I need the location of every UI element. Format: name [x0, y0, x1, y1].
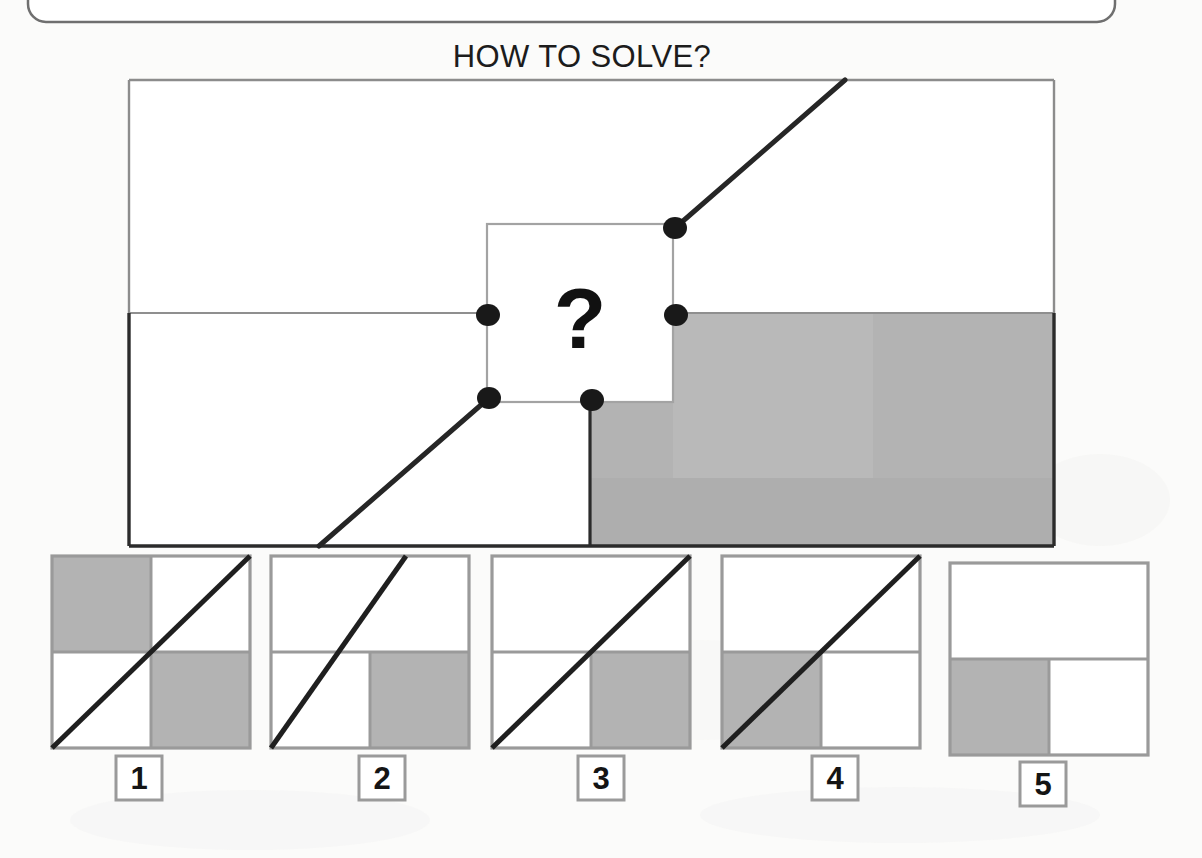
option-1-shade-top-left: [52, 556, 151, 652]
node-bottom-left-dot: [477, 387, 501, 409]
option-5-shade-bottom-left: [950, 659, 1049, 755]
main-puzzle-figure: ?: [129, 80, 1054, 546]
page-title: HOW TO SOLVE?: [453, 39, 711, 74]
option-5-number-label: 5: [1034, 767, 1051, 802]
node-mid-right-dot: [664, 304, 688, 326]
option-4-number-label: 4: [826, 761, 844, 796]
worksheet-page: HOW TO SOLVE?: [0, 0, 1202, 858]
node-top-right-dot: [663, 217, 687, 239]
node-mid-left-dot: [476, 304, 500, 326]
option-3-number-label: 3: [592, 761, 609, 796]
option-1-number-label: 1: [130, 761, 147, 796]
option-3-shade-bottom-right: [591, 652, 690, 748]
option-1-shade-bottom-right: [151, 652, 250, 748]
gray-tone-b: [590, 478, 1054, 546]
rounded-banner-box: [28, 0, 1115, 22]
option-2-number-label: 2: [373, 761, 390, 796]
question-mark-glyph: ?: [554, 270, 607, 366]
node-bottom-mid-dot: [580, 389, 604, 411]
option-2-shade-bottom-right: [370, 652, 469, 748]
worksheet-canvas: HOW TO SOLVE?: [0, 0, 1202, 858]
